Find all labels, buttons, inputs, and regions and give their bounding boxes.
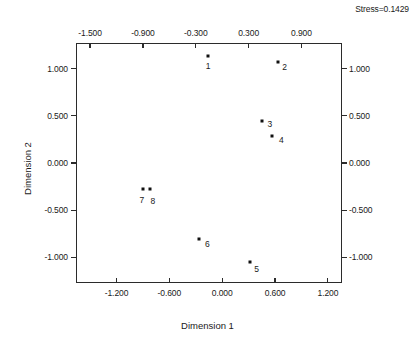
y-tick-label-right: 0.500 [349, 111, 370, 121]
y-tick-left [71, 162, 76, 163]
data-point-label: 2 [282, 62, 287, 72]
y-tick-right [342, 210, 347, 211]
x-tick-label-bottom: 1.200 [318, 288, 339, 298]
x-tick-bottom [327, 278, 328, 283]
y-tick-right [342, 162, 347, 163]
x-tick-bottom [169, 278, 170, 283]
data-point-label: 7 [140, 195, 145, 205]
y-tick-left [71, 115, 76, 116]
y-tick-label-right: -0.500 [349, 205, 373, 215]
mds-configuration-plot: Stress=0.1429 Dimension 1 Dimension 2 -1… [0, 0, 415, 339]
y-tick-label-right: -1.000 [349, 252, 373, 262]
stress-annotation: Stress=0.1429 [355, 4, 409, 14]
x-tick-bottom [116, 278, 117, 283]
y-tick-label-left: -0.500 [32, 205, 68, 215]
x-tick-label-bottom: 0.600 [265, 288, 286, 298]
x-tick-label-top: -0.900 [131, 28, 155, 38]
x-tick-bottom [222, 278, 223, 283]
data-point-label: 8 [151, 196, 156, 206]
x-tick-top [301, 43, 302, 48]
data-point-label: 1 [206, 61, 211, 71]
y-tick-label-left: -1.000 [32, 252, 68, 262]
x-tick-label-top: -1.500 [78, 28, 102, 38]
data-point [207, 55, 210, 58]
y-tick-label-left: 0.500 [32, 111, 68, 121]
y-tick-left [71, 210, 76, 211]
y-tick-right [342, 115, 347, 116]
data-point-label: 4 [279, 135, 284, 145]
data-point-label: 5 [254, 264, 259, 274]
data-point [260, 120, 263, 123]
y-tick-right [342, 257, 347, 258]
x-tick-top [195, 43, 196, 48]
data-point [271, 134, 274, 137]
data-point [276, 60, 279, 63]
data-point [248, 261, 251, 264]
x-tick-label-top: -0.300 [184, 28, 208, 38]
y-tick-left [71, 68, 76, 69]
x-tick-top [142, 43, 143, 48]
x-axis-title: Dimension 1 [0, 320, 415, 331]
y-tick-label-right: 0.000 [349, 158, 370, 168]
x-tick-label-top: 0.300 [238, 28, 259, 38]
y-tick-label-right: 1.000 [349, 64, 370, 74]
x-tick-label-bottom: -0.600 [158, 288, 182, 298]
x-tick-top [89, 43, 90, 48]
y-tick-label-left: 1.000 [32, 64, 68, 74]
data-point [141, 188, 144, 191]
y-tick-label-left: 0.000 [32, 158, 68, 168]
x-tick-label-bottom: -1.200 [105, 288, 129, 298]
x-tick-label-bottom: 0.000 [212, 288, 233, 298]
data-point-label: 6 [205, 239, 210, 249]
y-tick-right [342, 68, 347, 69]
data-point [198, 237, 201, 240]
x-tick-top [248, 43, 249, 48]
x-tick-bottom [274, 278, 275, 283]
y-tick-left [71, 257, 76, 258]
data-point [148, 187, 151, 190]
x-tick-label-top: 0.900 [291, 28, 312, 38]
data-point-label: 3 [267, 119, 272, 129]
y-axis-title: Dimension 2 [22, 109, 33, 229]
